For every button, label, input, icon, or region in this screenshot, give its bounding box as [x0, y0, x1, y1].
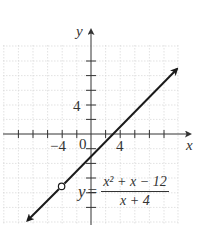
x-tick-label-neg4: −4 [50, 139, 66, 154]
equation-denominator: x + 4 [120, 192, 150, 209]
origin-label: 0 [79, 137, 87, 152]
equation-lhs: y [78, 182, 86, 202]
function-line-lower [28, 189, 59, 220]
hole-point [58, 183, 64, 189]
function-line-upper [65, 69, 178, 184]
x-axis-label: x [186, 138, 193, 153]
x-tick-label-4: 4 [116, 139, 124, 154]
equation-equals: = [88, 182, 98, 202]
y-tick-label-4: 4 [73, 99, 81, 114]
equation-numerator: x² + x − 12 [101, 174, 169, 192]
y-axis-label: y [76, 24, 83, 39]
equation-label: y = x² + x − 12 x + 4 [78, 174, 169, 209]
